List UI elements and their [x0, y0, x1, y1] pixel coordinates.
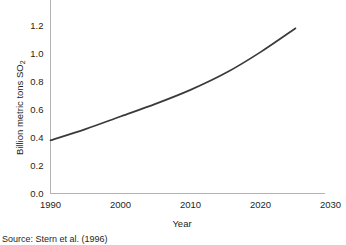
y-tick-label: 1.2: [18, 21, 44, 31]
y-axis-title-text: Billion metric tons SO: [14, 64, 25, 155]
x-tick-label: 1990: [31, 200, 71, 210]
x-axis-title: Year: [160, 219, 204, 229]
x-tick-label: 2020: [241, 200, 281, 210]
y-tick-label: 0.0: [18, 189, 44, 199]
x-tick-label: 2010: [171, 200, 211, 210]
data-line-so2: [51, 28, 296, 140]
x-tick-label: 2000: [101, 200, 141, 210]
source-note: Source: Stern et al. (1996): [2, 235, 108, 245]
y-axis-title: Billion metric tons SO2: [15, 38, 25, 178]
x-tick-label: 2030: [311, 200, 346, 210]
y-axis-title-subscript: 2: [19, 60, 26, 64]
